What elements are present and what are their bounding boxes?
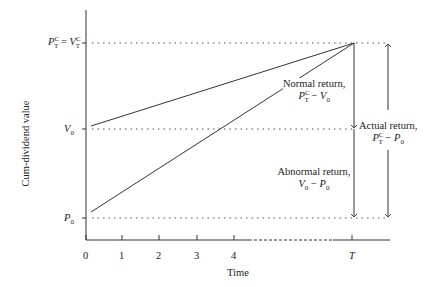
y-label-p0: P0 [64, 212, 74, 224]
x-tick-0: 0 [83, 250, 88, 262]
level-guides [92, 43, 388, 218]
equals-sign: = [58, 36, 69, 47]
actual-return-label: Actual return, PCT − P0 [359, 120, 417, 144]
x-axis-title: Time [227, 267, 249, 279]
abnormal-return-text: Abnormal return, [278, 166, 351, 178]
normal-return-label: Normal return, PCT − V0 [283, 78, 345, 102]
abnormal-return-formula: V0 − P0 [278, 178, 351, 190]
normal-return-formula: PCT − V0 [283, 90, 345, 102]
v0-sub: 0 [70, 129, 74, 137]
x-tick-T: T [349, 250, 355, 262]
x-tick-1: 1 [119, 250, 124, 262]
formula-sub: 0 [326, 184, 330, 192]
x-tick-3: 3 [194, 250, 199, 262]
y-ticks [82, 43, 86, 218]
normal-return-text: Normal return, [283, 78, 345, 90]
abnormal-return-label: Abnormal return, V0 − P0 [278, 166, 351, 190]
y-label-top: PCT = VCT [48, 36, 80, 48]
formula-sub: 0 [326, 96, 330, 104]
x-tick-4: 4 [231, 250, 236, 262]
formula-op: − [309, 90, 320, 101]
top-v-sub: T [76, 42, 80, 50]
y-axis-title: Cum-dividend value [20, 89, 31, 199]
formula-sub: 0 [400, 138, 404, 146]
actual-return-formula: PCT − P0 [359, 132, 417, 144]
x-tick-2: 2 [156, 250, 161, 262]
y-label-v0: V0 [64, 123, 74, 135]
formula-op: − [308, 178, 319, 189]
formula-op: − [383, 132, 394, 143]
actual-return-text: Actual return, [359, 120, 417, 132]
p0-sub: 0 [70, 218, 74, 226]
x-ticks [86, 235, 352, 240]
